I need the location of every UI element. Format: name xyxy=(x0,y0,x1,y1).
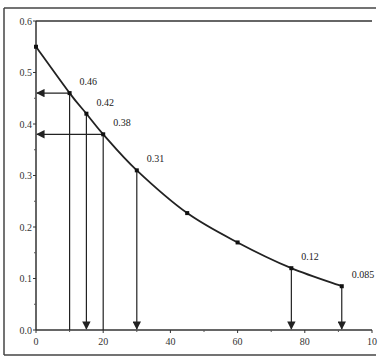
y-tick-label: 0.0 xyxy=(20,325,33,336)
data-point-marker xyxy=(236,240,240,244)
y-tick-label: 0.1 xyxy=(20,273,33,284)
x-tick-label: 10 xyxy=(367,336,377,347)
y-tick-label: 0.5 xyxy=(20,67,33,78)
data-point-marker xyxy=(101,132,105,136)
data-point-marker xyxy=(68,91,72,95)
data-point-marker xyxy=(340,284,344,288)
x-tick-label: 40 xyxy=(165,336,175,347)
y-tick-label: 0.2 xyxy=(20,222,33,233)
axis-ticks: 0.00.10.20.30.40.50.602040608010 xyxy=(20,16,378,348)
data-point-marker xyxy=(185,211,189,215)
x-tick-label: 60 xyxy=(233,336,243,347)
y-tick-label: 0.6 xyxy=(20,16,33,27)
x-tick-label: 0 xyxy=(34,336,39,347)
chart: 0.00.10.20.30.40.50.602040608010 0.460.4… xyxy=(0,0,380,361)
point-value-label: 0.085 xyxy=(352,269,375,280)
point-value-label: 0.38 xyxy=(113,117,131,128)
outer-frame xyxy=(4,8,376,355)
point-labels: 0.460.420.380.310.120.085 xyxy=(80,76,375,280)
data-point-marker xyxy=(289,266,293,270)
x-tick-label: 20 xyxy=(98,336,108,347)
point-value-label: 0.42 xyxy=(96,97,114,108)
y-tick-label: 0.3 xyxy=(20,170,33,181)
y-tick-label: 0.4 xyxy=(20,119,33,130)
data-point-marker xyxy=(34,45,38,49)
data-point-marker xyxy=(84,112,88,116)
point-value-label: 0.12 xyxy=(301,251,319,262)
guide-lines xyxy=(37,93,342,330)
data-point-marker xyxy=(135,168,139,172)
point-value-label: 0.46 xyxy=(80,76,98,87)
x-tick-label: 80 xyxy=(300,336,310,347)
point-value-label: 0.31 xyxy=(147,153,165,164)
